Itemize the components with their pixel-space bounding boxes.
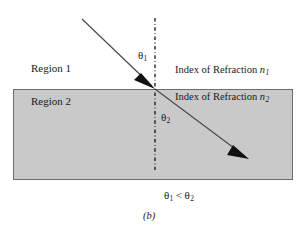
index-of-refraction-2-label: Index of Refraction n2 bbox=[175, 92, 269, 104]
diagram-canvas bbox=[0, 0, 307, 233]
index-of-refraction-1-label: Index of Refraction n1 bbox=[175, 65, 269, 77]
relation-operator: < bbox=[173, 189, 184, 201]
theta-1-subscript: 1 bbox=[143, 54, 147, 63]
figure-caption: (b) bbox=[143, 211, 155, 222]
angle-relation: θ1<θ2 bbox=[164, 190, 194, 203]
index-2-subscript: 2 bbox=[265, 95, 269, 104]
refraction-figure: Region 1 Region 2 Index of Refraction n1… bbox=[0, 0, 307, 233]
index-1-text: Index of Refraction bbox=[175, 64, 257, 75]
theta-2-subscript: 2 bbox=[166, 116, 170, 125]
relation-right-subscript: 2 bbox=[190, 194, 194, 203]
region-2-label: Region 2 bbox=[31, 96, 71, 107]
region-1-label: Region 1 bbox=[31, 63, 71, 74]
theta-1-label: θ1 bbox=[138, 50, 147, 63]
index-2-text: Index of Refraction bbox=[175, 91, 257, 102]
index-1-subscript: 1 bbox=[265, 68, 269, 77]
theta-2-label: θ2 bbox=[161, 112, 170, 125]
incident-ray-arrowhead bbox=[134, 73, 155, 89]
